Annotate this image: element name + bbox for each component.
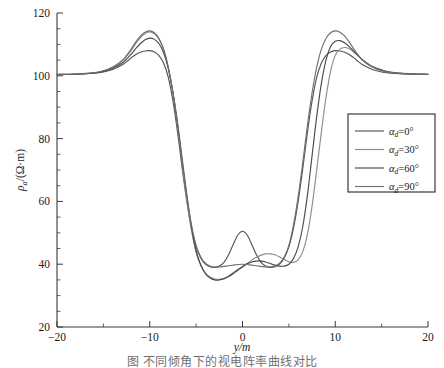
x-axis-ticks (57, 321, 428, 327)
x-tick-label-1: −10 (141, 331, 159, 343)
y-tick-label-2: 60 (39, 195, 51, 207)
y-axis-label: ρa/(Ω·m) (14, 149, 29, 192)
figure-caption: 图 不同倾角下的视电阵率曲线对比 (0, 352, 444, 368)
y-tick-label-3: 80 (39, 133, 51, 145)
y-axis-ticks (57, 13, 63, 327)
y-axis-title: ρa/(Ω·m) (14, 149, 29, 192)
legend: αd=0°αd=30°αd=60°αd=90° (348, 114, 435, 195)
x-tick-label-4: 20 (422, 331, 434, 343)
y-tick-label-0: 20 (39, 321, 51, 333)
figure-container: −20−1001020 20406080100120 y/m ρa/(Ω·m) … (0, 0, 444, 368)
y-tick-label-4: 100 (33, 70, 51, 82)
y-tick-label-1: 40 (39, 258, 51, 270)
y-axis-tick-labels: 20406080100120 (33, 7, 51, 333)
y-tick-label-5: 120 (33, 7, 51, 19)
x-tick-label-0: −20 (48, 331, 66, 343)
apparent-resistivity-line-chart: −20−1001020 20406080100120 y/m ρa/(Ω·m) … (0, 0, 444, 368)
x-tick-label-3: 10 (330, 331, 342, 343)
